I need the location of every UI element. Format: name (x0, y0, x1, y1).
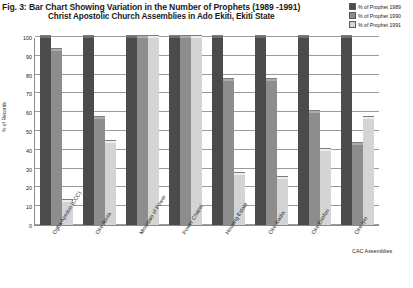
y-axis-tick-label: 80 (26, 73, 32, 79)
y-axis-ticks: 0102030405060708090100 (11, 36, 32, 226)
legend-label: % of Prophet 1989 (358, 4, 401, 10)
bar-group (255, 38, 288, 225)
legend-label: % of Prophet 1991 (358, 22, 401, 28)
bar (126, 37, 137, 225)
bar-top-cap (148, 35, 159, 38)
legend-item: % of Prophet 1991 (349, 20, 411, 29)
bar (169, 37, 180, 225)
y-axis-tick-label: 0 (29, 223, 32, 229)
bar (223, 80, 234, 225)
bar (94, 118, 105, 225)
bar-top-cap (341, 35, 352, 38)
bar (309, 112, 320, 225)
bar-top-cap (298, 35, 309, 38)
bar-group (40, 38, 73, 225)
bar (148, 37, 159, 225)
bar-group (298, 38, 331, 225)
bar-groups (35, 38, 379, 225)
bar (212, 37, 223, 225)
bar-top-cap (363, 116, 374, 119)
bar-top-cap (40, 35, 51, 38)
bar-group (83, 38, 116, 225)
legend-swatch-icon (349, 12, 356, 19)
bar-group (169, 38, 202, 225)
page-title: Fig. 3: Bar Chart Showing Variation in t… (0, 2, 340, 12)
bar-top-cap (277, 176, 288, 179)
bar (363, 118, 374, 225)
bar-top-cap (212, 35, 223, 38)
bar (191, 37, 202, 225)
plot-area (34, 38, 379, 226)
bar-top-cap (126, 35, 137, 38)
bar-top-cap (223, 78, 234, 81)
bar-top-cap (234, 172, 245, 175)
bar-top-cap (180, 35, 191, 38)
plot-wrapper: % of Records 0102030405060708090100 Ogba… (0, 36, 413, 288)
bar-top-cap (352, 142, 363, 145)
y-axis-tick-label: 90 (26, 54, 32, 60)
bar (266, 80, 277, 225)
y-axis-title: % of Records (1, 102, 7, 132)
y-axis-tick-label: 30 (26, 167, 32, 173)
bar-group (341, 38, 374, 225)
y-axis-tick-label: 10 (26, 204, 32, 210)
legend-label: % of Prophet 1990 (358, 13, 401, 19)
title-block: Fig. 3: Bar Chart Showing Variation in t… (0, 2, 340, 22)
y-axis-tick-label: 60 (26, 110, 32, 116)
x-axis-category-labels: Ogba Ayedun (CCC)Oke ItunlaMountain of P… (34, 228, 379, 288)
bar-top-cap (137, 35, 148, 38)
bar-top-cap (169, 35, 180, 38)
bar (137, 37, 148, 225)
bar (341, 37, 352, 225)
bar (51, 50, 62, 225)
bar-top-cap (83, 35, 94, 38)
bar-group (212, 38, 245, 225)
bar (40, 37, 51, 225)
bar (255, 37, 266, 225)
bar-top-cap (51, 48, 62, 51)
bar (83, 37, 94, 225)
legend-item: % of Prophet 1990 (349, 11, 411, 20)
y-axis-tick-label: 50 (26, 129, 32, 135)
bar-top-cap (105, 140, 116, 143)
bar-top-cap (255, 35, 266, 38)
chart-legend: % of Prophet 1989% of Prophet 1990% of P… (349, 2, 411, 29)
legend-item: % of Prophet 1989 (349, 2, 411, 11)
y-axis-tick-label: 100 (23, 35, 32, 41)
x-axis-title: CAC Assemblies (352, 248, 392, 254)
y-axis-tick-label: 20 (26, 185, 32, 191)
y-axis-tick-label: 70 (26, 91, 32, 97)
bar-group (126, 38, 159, 225)
bar (180, 37, 191, 225)
legend-swatch-icon (349, 3, 356, 10)
y-axis-tick-label: 40 (26, 148, 32, 154)
bar-top-cap (309, 110, 320, 113)
bar-top-cap (191, 35, 202, 38)
bar (352, 144, 363, 225)
chart-subtitle: Christ Apostolic Church Assemblies in Ad… (0, 12, 340, 22)
bar-top-cap (94, 116, 105, 119)
bar-top-cap (266, 78, 277, 81)
bar (298, 37, 309, 225)
legend-swatch-icon (349, 21, 356, 28)
bar-top-cap (320, 148, 331, 151)
